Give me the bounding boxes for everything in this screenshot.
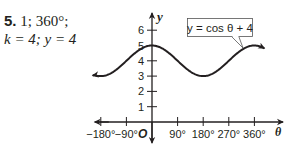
y-tick-label: 6	[138, 24, 144, 36]
cosine-curve	[93, 46, 265, 77]
x-tick-label: 90°	[169, 128, 186, 140]
y-tick-label: 3	[138, 70, 144, 82]
y-tick-label: 2	[138, 85, 144, 97]
x-tick-label: 360°	[243, 128, 266, 140]
y-axis-label: y	[155, 9, 163, 24]
x-tick-label: −90°	[115, 128, 138, 140]
x-axis-label: θ	[275, 125, 282, 139]
equation-label: y = cos θ + 4	[187, 19, 253, 49]
cosine-graph: −180°−90°90°180°270°360°123456yθO y = co…	[0, 0, 286, 148]
x-tick-label: −180°	[86, 128, 115, 140]
y-tick-label: 4	[138, 55, 144, 67]
equation-text: y = cos θ + 4	[187, 22, 253, 34]
origin-label: O	[138, 127, 148, 141]
axes: −180°−90°90°180°270°360°123456yθO	[86, 9, 283, 143]
y-tick-label: 1	[138, 101, 144, 113]
x-tick-label: 270°	[217, 128, 240, 140]
x-tick-label: 180°	[192, 128, 215, 140]
